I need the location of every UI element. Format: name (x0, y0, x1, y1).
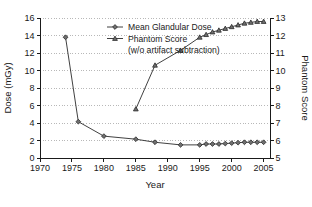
x-axis-title: Year (145, 179, 164, 190)
y-tick-label: 2 (29, 136, 34, 146)
legend-label: Phantom Score (128, 34, 187, 44)
y2-tick-label: 10 (276, 66, 286, 76)
y2-tick-label: 12 (276, 31, 286, 41)
y2-tick-label: 11 (276, 48, 285, 58)
y-tick-label: 6 (29, 101, 34, 111)
chart-container: 0246810121416567891011121319701975198019… (0, 0, 312, 207)
y-axis-title: Dose (mGy) (2, 62, 13, 113)
x-tick-label: 1980 (94, 163, 114, 173)
x-tick-label: 2005 (254, 163, 274, 173)
y-tick-label: 0 (29, 153, 34, 163)
y2-tick-label: 6 (276, 136, 281, 146)
y-tick-label: 8 (29, 83, 34, 93)
dose-phantom-score-chart: 0246810121416567891011121319701975198019… (0, 0, 312, 207)
x-tick-label: 2000 (222, 163, 242, 173)
x-tick-label: 1975 (62, 163, 82, 173)
x-tick-label: 1995 (190, 163, 210, 173)
y-tick-label: 14 (24, 31, 34, 41)
y2-tick-label: 13 (276, 13, 286, 23)
y2-tick-label: 7 (276, 118, 281, 128)
legend-note: (w/o artifact subtraction) (128, 45, 220, 55)
y-tick-label: 10 (24, 66, 34, 76)
x-tick-label: 1990 (158, 163, 178, 173)
x-tick-label: 1970 (30, 163, 50, 173)
legend-label: Mean Glandular Dose (128, 22, 212, 32)
x-tick-label: 1985 (126, 163, 146, 173)
y2-tick-label: 5 (276, 153, 281, 163)
y2-tick-label: 9 (276, 83, 281, 93)
y-tick-label: 16 (24, 13, 34, 23)
y-tick-label: 12 (24, 48, 34, 58)
y2-tick-label: 8 (276, 101, 281, 111)
y2-axis-title: Phantom Score (300, 55, 311, 120)
y-tick-label: 4 (29, 118, 34, 128)
